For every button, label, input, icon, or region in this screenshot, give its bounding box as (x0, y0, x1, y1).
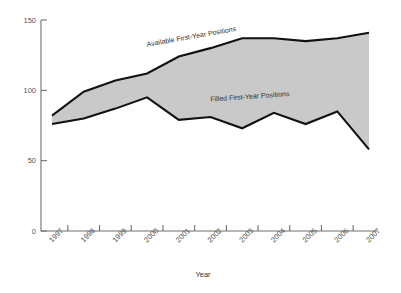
chart-container: 050100150 199719981999200020012002200320… (0, 0, 401, 293)
y-axis-ticks (41, 20, 47, 231)
x-tick-label-2000: 2000 (142, 226, 160, 244)
x-axis-tick-labels: 1997199819992000200120022003200420052006… (47, 226, 382, 244)
x-tick-label-1999: 1999 (110, 226, 128, 244)
x-tick-label-2007: 2007 (364, 226, 382, 244)
y-tick-label: 50 (28, 156, 36, 165)
shaded-gap-band (52, 33, 369, 150)
x-tick-label-2001: 2001 (174, 226, 192, 244)
area-chart: 050100150 199719981999200020012002200320… (0, 0, 401, 293)
x-tick-label-2003: 2003 (237, 226, 255, 244)
y-tick-label: 150 (23, 16, 36, 25)
x-tick-label-1998: 1998 (79, 226, 97, 244)
y-axis-tick-labels: 050100150 (23, 16, 36, 236)
x-tick-label-2004: 2004 (269, 226, 287, 244)
x-tick-label-2005: 2005 (301, 226, 319, 244)
x-axis-title: Year (195, 270, 211, 279)
x-tick-label-2006: 2006 (332, 226, 350, 244)
y-tick-label: 0 (32, 227, 36, 236)
y-tick-label: 100 (23, 86, 36, 95)
x-tick-label-1997: 1997 (47, 226, 65, 244)
band-path (52, 33, 369, 150)
x-tick-label-2002: 2002 (206, 226, 224, 244)
